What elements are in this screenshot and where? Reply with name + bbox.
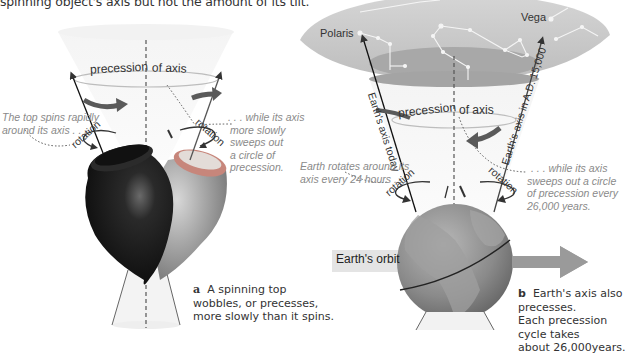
- panel-b-note-left: Earth rotates around its axis every 24 h…: [300, 160, 409, 185]
- earth-orbit-label: Earth's orbit: [336, 252, 400, 266]
- panel-b-of-axis-label: of axis: [459, 103, 494, 117]
- panel-a-note-left: The top spins rapidly around its axis . …: [2, 111, 99, 136]
- panel-b-note-right: . . . while its axis sweeps out a circle…: [527, 162, 618, 212]
- star-vega-label: Vega: [521, 11, 546, 23]
- star-polaris-label: Polaris: [320, 27, 354, 39]
- panel-a-of-axis-label: of axis: [152, 60, 187, 75]
- panel-a-note-right: . . . while its axis more slowly sweeps …: [230, 111, 304, 174]
- panel-a-caption: a A spinning top wobbles, or precesses, …: [193, 283, 334, 324]
- panel-b-caption: b Earth's axis also precesses. Each prec…: [518, 287, 636, 355]
